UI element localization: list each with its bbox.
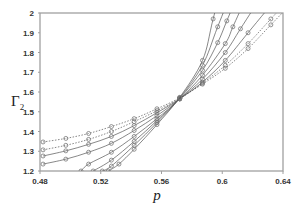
y-tick-label: 1.2 [23, 167, 35, 176]
y-tick-label: 1.4 [23, 128, 35, 137]
y-axis-ticks: 1.21.31.41.51.61.71.81.92 [23, 9, 40, 176]
plot-frame [40, 13, 283, 171]
x-axis-ticks: 0.480.520.560.60.64 [32, 171, 291, 186]
y-tick-label: 1.7 [23, 68, 35, 77]
y-tick-label: 1.9 [23, 29, 35, 38]
y-tick-label: 2 [30, 9, 35, 18]
y-tick-label: 1.5 [23, 108, 35, 117]
y-tick-label: 1.3 [23, 147, 35, 156]
x-tick-label: 0.56 [154, 177, 170, 186]
y-tick-label: 1.6 [23, 88, 35, 97]
x-tick-label: 0.48 [32, 177, 48, 186]
x-axis-label: p [152, 187, 161, 203]
chart: 1.21.31.41.51.61.71.81.92 0.480.520.560.… [0, 0, 299, 210]
x-tick-label: 0.64 [275, 177, 291, 186]
y-tick-label: 1.8 [23, 49, 35, 58]
x-tick-label: 0.6 [217, 177, 229, 186]
x-tick-label: 0.52 [93, 177, 109, 186]
